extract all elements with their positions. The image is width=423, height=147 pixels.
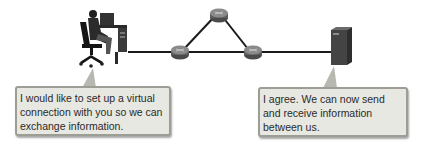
server-icon — [331, 27, 352, 65]
bubble-pointer-client — [82, 68, 96, 88]
bubble-line: I agree. We can now send — [263, 92, 401, 106]
bubble-line: between us. — [263, 120, 401, 134]
router-icon — [244, 46, 262, 60]
router-icon — [171, 46, 189, 60]
network-diagram: I would like to set up a virtual connect… — [0, 0, 423, 147]
bubble-line: exchange information. — [20, 119, 164, 133]
link-router-top-router-right — [222, 16, 248, 49]
bubble-line: connection with you so we can — [20, 105, 164, 119]
bubble-pointer-server — [323, 66, 337, 88]
bubble-line: and receive information — [263, 106, 401, 120]
link-router-left-router-top — [184, 16, 215, 49]
bubble-line: I would like to set up a virtual — [20, 91, 164, 105]
links — [128, 16, 332, 52]
user-workstation-icon — [79, 10, 127, 68]
server-speech-bubble: I agree. We can now send and receive inf… — [258, 87, 408, 137]
client-speech-bubble: I would like to set up a virtual connect… — [15, 86, 171, 136]
router-icon — [210, 9, 228, 23]
